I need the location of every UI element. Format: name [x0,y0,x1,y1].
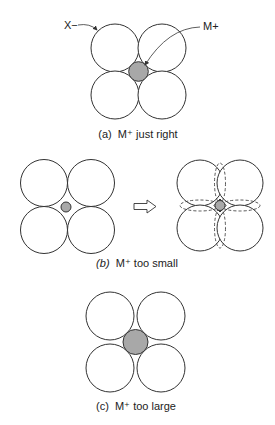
anion-circle [21,160,68,207]
anion-circle [177,160,223,206]
cation-circle [61,202,71,212]
anion-circle [68,207,115,254]
anion-circle [68,160,115,207]
anion-circle [21,207,68,254]
caption-c: (c) M⁺ too large [96,400,176,412]
cation-circle [215,201,225,211]
panel-c: (c) M⁺ too large [86,292,185,412]
panel-b-left [21,160,115,254]
anion-circle [217,160,263,206]
anion-label: X− [64,19,78,31]
anion-leader-arrow [78,25,97,30]
anion-circle [177,205,223,251]
ionic-radius-ratio-diagram: X− M+ (a) M⁺ just right (b) M⁺ t [0,0,275,425]
panel-b-right [177,160,263,251]
cation-label: M+ [203,20,219,32]
caption-b: (b) M⁺ too small [96,257,178,269]
anion-circle [217,205,263,251]
open-right-arrow-icon [134,200,156,213]
panel-a: X− M+ (a) M⁺ just right [64,19,219,140]
cation-circle [123,330,148,355]
caption-a: (a) M⁺ just right [98,128,177,140]
